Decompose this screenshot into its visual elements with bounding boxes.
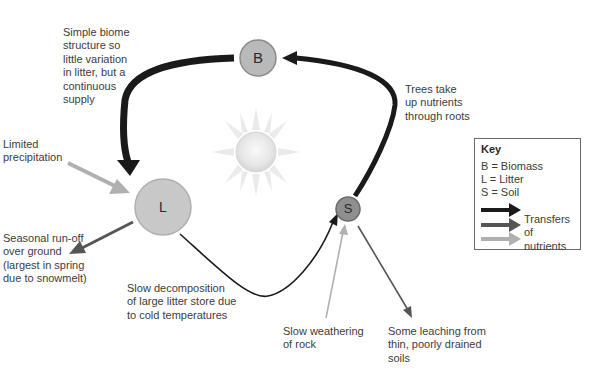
legend-arrow-major-icon [481,203,521,217]
arrow-precipitation [68,163,130,194]
legend-item-soil: S = Soil [481,186,519,198]
legend-transfer-label: Transfers of nutrients [524,213,580,253]
soil-node-label: S [341,201,355,216]
legend-item-litter: L = Litter [481,173,524,185]
legend-arrow-minor-icon [481,232,521,246]
biomass-node-label: B [249,49,267,66]
sun-icon [212,108,300,196]
arrow-weathering [326,224,348,318]
leaching-label: Some leaching from thin, poorly drained … [388,325,486,365]
decomposition-label: Slow decomposition of large litter store… [127,282,236,322]
legend-item-biomass: B = Biomass [481,160,543,172]
litter-node-label: L [154,199,172,215]
arrow-biomass-to-litter [117,58,234,176]
biome-structure-label: Simple biome structure so little variati… [63,26,130,106]
legend-key: Key B = Biomass L = Litter S = Soil Tran… [474,138,581,250]
weathering-label: Slow weathering of rock [283,325,364,352]
legend-title: Key [481,143,501,155]
arrow-leaching [358,226,412,318]
arrow-soil-to-biomass [282,51,395,196]
runoff-label: Seasonal run-off over ground (largest in… [3,232,87,286]
legend-arrow-medium-icon [481,218,521,232]
precipitation-label: Limited precipitation [3,138,62,165]
legend-arrows [481,203,523,247]
trees-uptake-label: Trees take up nutrients through roots [405,83,470,123]
